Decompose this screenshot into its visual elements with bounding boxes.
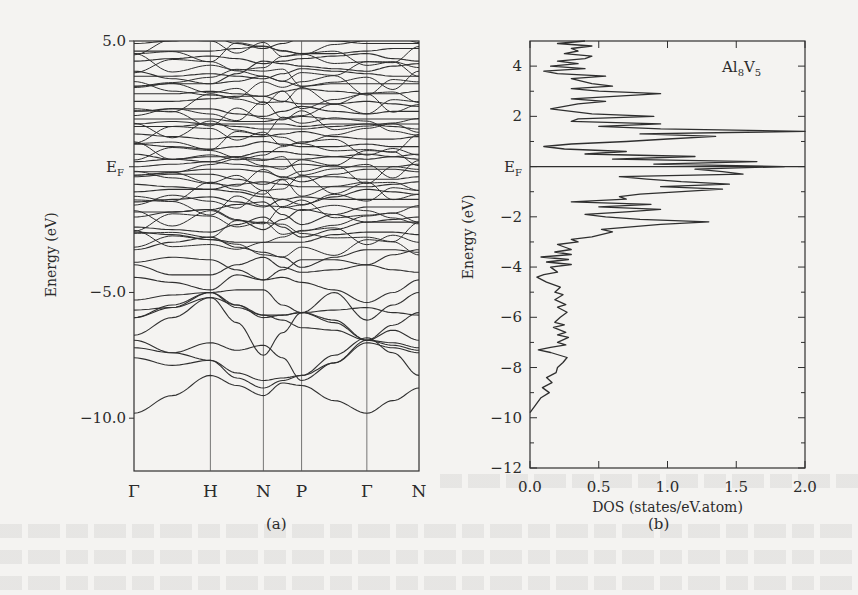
x-axis-label: DOS (states/eV.atom): [592, 499, 743, 515]
band-structure-plot: ΓHNPΓN5.0EF−5.0−10.0Energy (eV): [43, 32, 427, 501]
compound-label: Al8V5: [721, 58, 761, 78]
kpoint-label: Γ: [361, 481, 373, 501]
y-axis-label: Energy (eV): [43, 212, 59, 297]
y-tick-label: −6: [500, 308, 522, 326]
y-axis-label: Energy (eV): [460, 194, 476, 279]
band-lines: [134, 35, 419, 413]
y-tick-label: −8: [500, 359, 522, 377]
bleed-through-text: [440, 474, 858, 488]
y-tick-label: −4: [500, 258, 522, 276]
y-tick-label: 4: [512, 57, 522, 75]
kpoint-label: Γ: [128, 481, 140, 501]
dos-curve: [530, 41, 805, 413]
dos-plot: 0.00.51.01.52.042EF−2−4−6−8−10−12Energy …: [460, 41, 817, 515]
fermi-level-label: EF: [504, 158, 522, 178]
bleed-through-text: [0, 550, 858, 564]
kpoint-label: N: [412, 481, 427, 501]
y-tick-label: −10: [490, 409, 522, 427]
y-tick-label: −5.0: [90, 283, 126, 301]
y-tick-label: 2: [512, 107, 522, 125]
kpoint-label: H: [203, 481, 218, 501]
y-tick-label: −2: [500, 208, 522, 226]
y-tick-label: −10.0: [80, 409, 126, 427]
bleed-through-text: [0, 524, 858, 538]
kpoint-label: P: [296, 481, 307, 501]
kpoint-label: N: [256, 481, 271, 501]
fermi-level-label: EF: [106, 158, 124, 178]
y-tick-label: 5.0: [102, 32, 126, 50]
band-structure-chart: ΓHNPΓN5.0EF−5.0−10.0Energy (eV) 0.00.51.…: [0, 0, 858, 595]
bleed-through-text: [0, 576, 858, 590]
